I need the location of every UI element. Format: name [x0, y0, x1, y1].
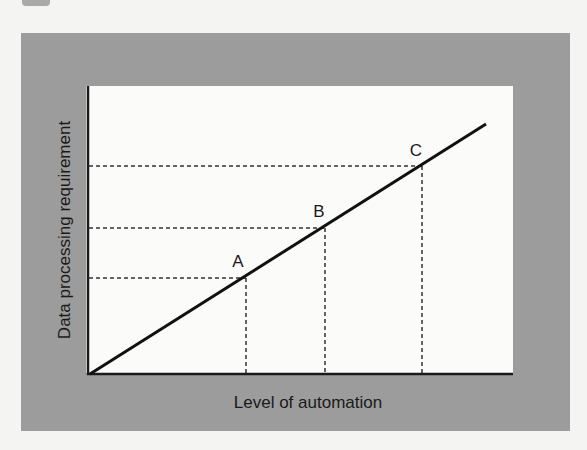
x-axis-label: Level of automation	[234, 393, 382, 413]
point-label-a: A	[232, 252, 243, 272]
point-label-c: C	[410, 141, 422, 161]
y-axis-label: Data processing requirement	[55, 121, 75, 339]
automation-requirement-line	[90, 124, 486, 374]
diagram-lines	[0, 0, 587, 450]
point-label-b: B	[313, 202, 324, 222]
